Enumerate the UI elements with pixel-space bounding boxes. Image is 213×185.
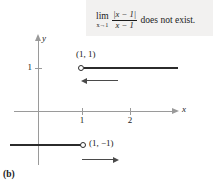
x-tick-mark-1 [82, 108, 83, 115]
y-tick-mark-1 [35, 68, 42, 69]
y-axis-line [38, 40, 39, 165]
x-axis-label: x [182, 104, 186, 114]
x-axis-arrowhead-icon [172, 108, 179, 114]
y-axis-label: y [42, 33, 46, 43]
limit-figure: lim x→1 |x − 1| x − 1 does not exist. y … [0, 0, 213, 185]
fraction-denominator: x − 1 [115, 21, 135, 30]
fraction-numerator: |x − 1| [112, 10, 137, 19]
left-arrow-icon [81, 78, 87, 84]
x-tick-label-1: 1 [76, 115, 88, 125]
y-tick-label-1: 1 [22, 62, 32, 72]
limit-subscript-text: x→1 [96, 22, 108, 28]
fraction: |x − 1| x − 1 [112, 10, 137, 29]
lower-branch-direction-arrow-line [82, 159, 114, 160]
x-tick-mark-2 [130, 108, 131, 115]
limit-conclusion-text: does not exist. [141, 15, 196, 25]
upper-branch-open-circle-icon [78, 65, 84, 71]
lower-branch-open-circle-icon [80, 142, 86, 148]
lower-branch-point-label: (1, −1) [89, 138, 114, 148]
upper-branch-point-label: (1, 1) [76, 49, 96, 59]
x-axis-line [14, 111, 173, 112]
figure-caption: (b) [3, 169, 15, 179]
upper-branch-ray [84, 67, 178, 69]
limit-operator-text: lim [96, 12, 109, 22]
limit-formula: lim x→1 |x − 1| x − 1 does not exist. [96, 7, 213, 33]
right-arrow-icon [113, 157, 119, 163]
lower-branch-ray [10, 144, 82, 146]
limit-operator-block: lim x→1 [96, 12, 109, 28]
upper-branch-direction-arrow-line [86, 80, 118, 81]
y-axis-arrowhead-icon [35, 34, 41, 41]
x-tick-label-2: 2 [124, 115, 136, 125]
